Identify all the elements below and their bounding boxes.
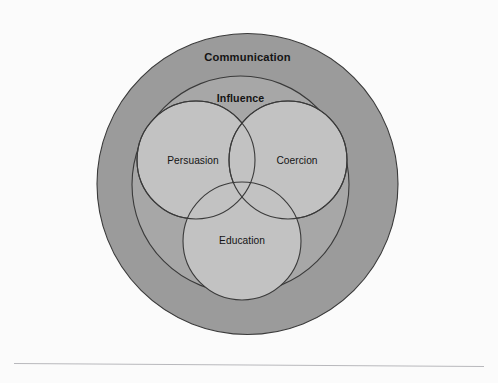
communication-label: Communication (204, 51, 290, 63)
influence-label: Influence (217, 92, 264, 104)
persuasion-label: Persuasion (167, 155, 218, 166)
venn-diagram-figure: Communication Influence Persuasion Coerc… (0, 0, 498, 383)
coercion-label: Coercion (276, 155, 317, 166)
education-label: Education (219, 235, 265, 246)
diagram-canvas: Communication Influence Persuasion Coerc… (0, 0, 498, 383)
